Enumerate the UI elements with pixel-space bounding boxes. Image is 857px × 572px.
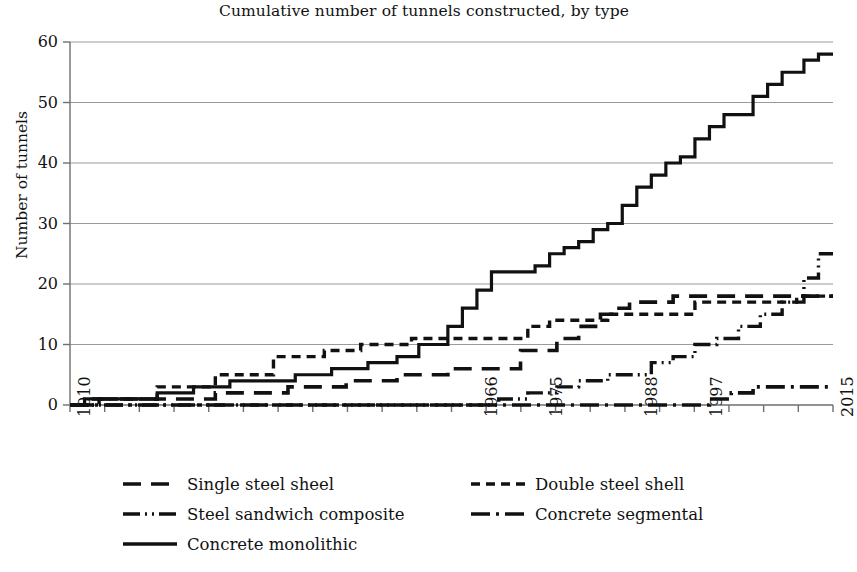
series-line-0 bbox=[70, 296, 833, 405]
legend-entry: Single steel sheel bbox=[122, 475, 334, 494]
legend-row: Concrete monolithic bbox=[0, 530, 848, 558]
legend-label: Double steel shell bbox=[535, 475, 684, 494]
chart-legend: Single steel sheelDouble steel shellStee… bbox=[0, 470, 848, 570]
legend-row: Steel sandwich compositeConcrete segment… bbox=[0, 500, 848, 528]
legend-label: Concrete segmental bbox=[535, 505, 703, 524]
legend-entry: Steel sandwich composite bbox=[122, 505, 404, 524]
series-line-3 bbox=[70, 387, 833, 405]
legend-label: Concrete monolithic bbox=[187, 535, 357, 554]
data-series-layer bbox=[70, 54, 833, 405]
legend-entry: Concrete segmental bbox=[470, 505, 703, 524]
dot-key bbox=[470, 477, 526, 491]
legend-entry: Concrete monolithic bbox=[122, 535, 357, 554]
series-line-1 bbox=[70, 296, 833, 405]
dash-key bbox=[122, 477, 178, 491]
grid-lines bbox=[70, 42, 833, 345]
axis-lines bbox=[63, 42, 833, 412]
series-line-4 bbox=[70, 54, 833, 405]
dash-dot-key bbox=[470, 507, 526, 521]
series-line-2 bbox=[70, 254, 833, 405]
legend-label: Single steel sheel bbox=[187, 475, 334, 494]
legend-entry: Double steel shell bbox=[470, 475, 684, 494]
solid-key bbox=[122, 537, 178, 551]
legend-row: Single steel sheelDouble steel shell bbox=[0, 470, 848, 498]
legend-label: Steel sandwich composite bbox=[187, 505, 404, 524]
dash-dot-dot-key bbox=[122, 507, 178, 521]
